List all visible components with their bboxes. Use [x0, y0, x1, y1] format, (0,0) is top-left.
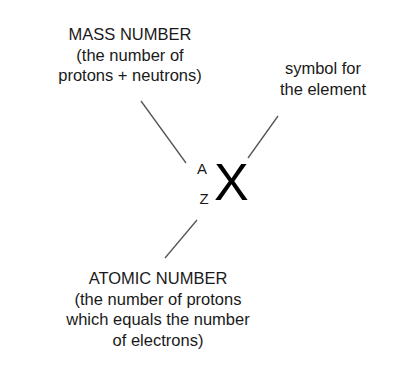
mass-number-title: MASS NUMBER	[30, 24, 230, 45]
mass-number-leader-line	[141, 101, 186, 163]
atomic-number-title: ATOMIC NUMBER	[58, 268, 258, 289]
element-symbol: X	[214, 156, 249, 208]
atomic-number-leader-line	[165, 220, 197, 258]
mass-number-superscript: A	[195, 161, 209, 176]
atomic-number-desc-3: of electrons)	[58, 330, 258, 351]
atomic-number-subscript: Z	[197, 191, 211, 206]
atomic-number-desc-1: (the number of protons	[58, 289, 258, 310]
symbol-label-line-2: the element	[268, 79, 378, 100]
atomic-number-label: ATOMIC NUMBER (the number of protons whi…	[58, 268, 258, 350]
mass-number-desc-1: (the number of	[30, 45, 230, 66]
atomic-number-desc-2: which equals the number	[58, 309, 258, 330]
mass-number-desc-2: protons + neutrons)	[30, 65, 230, 86]
symbol-label-line-1: symbol for	[268, 58, 378, 79]
symbol-label: symbol for the element	[268, 58, 378, 99]
mass-number-label: MASS NUMBER (the number of protons + neu…	[30, 24, 230, 86]
symbol-leader-line	[248, 116, 278, 158]
